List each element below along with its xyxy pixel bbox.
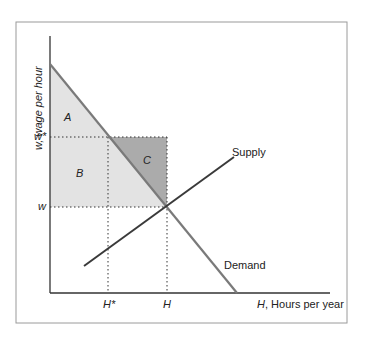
region-c-label: C: [143, 154, 151, 166]
h-star-label: H*: [103, 298, 116, 310]
supply-label: Supply: [232, 146, 266, 158]
w-label: w: [38, 200, 47, 212]
x-axis-label: H, Hours per year: [257, 298, 344, 310]
w-star-label: w*: [34, 130, 47, 142]
region-a-label: A: [63, 111, 71, 123]
h-label: H: [163, 298, 171, 310]
demand-label: Demand: [224, 259, 266, 271]
region-b-label: B: [76, 167, 83, 179]
diagram-figure: w, wage per hour H, Hours per year w* w …: [0, 0, 365, 341]
